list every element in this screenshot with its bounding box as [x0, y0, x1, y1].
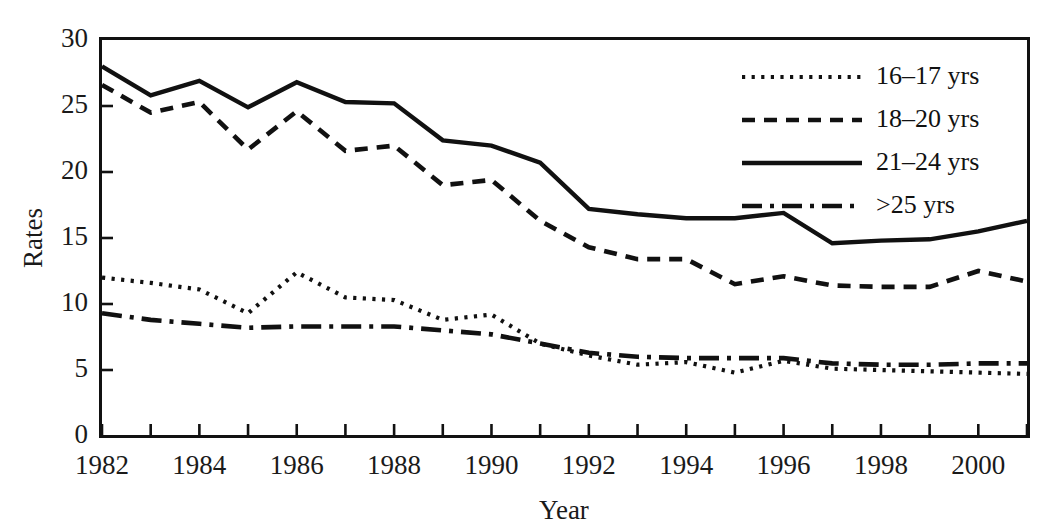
x-tick-label: 1986 [270, 450, 324, 480]
plot-frame [101, 39, 1029, 437]
legend-label-2: 21–24 yrs [876, 147, 979, 176]
x-axis-tick-labels: 1982198419861988199019921994199619982000 [75, 450, 1005, 480]
x-tick-label: 1984 [172, 450, 227, 480]
x-tick-label: 1988 [367, 450, 421, 480]
legend-label-0: 16–17 yrs [876, 61, 979, 90]
x-tick-label: 1994 [659, 450, 714, 480]
legend-label-1: 18–20 yrs [876, 104, 979, 133]
y-tick-label: 10 [61, 287, 88, 317]
y-axis-title: Rates [18, 208, 48, 268]
x-axis-ticks [102, 424, 1027, 436]
x-axis-title: Year [539, 495, 589, 525]
legend: 16–17 yrs18–20 yrs21–24 yrs>25 yrs [742, 61, 979, 219]
x-tick-label: 1996 [757, 450, 811, 480]
legend-label-3: >25 yrs [876, 190, 955, 219]
x-tick-label: 1998 [854, 450, 908, 480]
chart-canvas: 051015202530 198219841986198819901992199… [0, 0, 1063, 531]
x-tick-label: 1992 [562, 450, 616, 480]
y-tick-label: 15 [61, 221, 88, 251]
line-chart-figure: 051015202530 198219841986198819901992199… [0, 0, 1063, 531]
y-axis-ticks [102, 106, 113, 370]
y-tick-label: 0 [75, 419, 89, 449]
y-tick-label: 20 [61, 155, 88, 185]
x-tick-label: 2000 [951, 450, 1005, 480]
y-tick-label: 5 [75, 353, 89, 383]
y-tick-label: 30 [61, 23, 88, 53]
series-line-3 [102, 313, 1027, 364]
y-tick-label: 25 [61, 89, 88, 119]
x-tick-label: 1990 [464, 450, 518, 480]
y-axis-tick-labels: 051015202530 [61, 23, 88, 449]
x-tick-label: 1982 [75, 450, 129, 480]
